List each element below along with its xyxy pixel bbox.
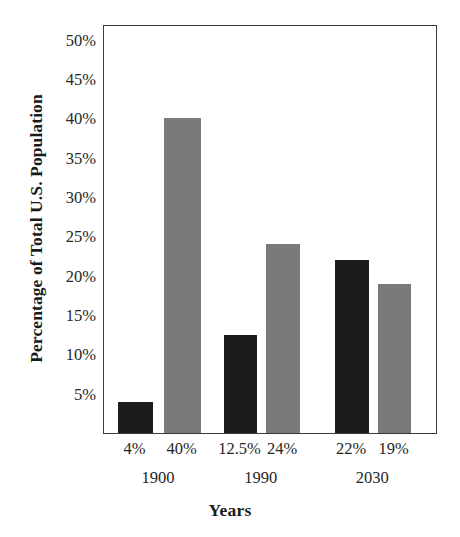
bar-value-label: 4% bbox=[124, 441, 146, 458]
y-axis-tick-label: 10% bbox=[50, 347, 96, 364]
y-axis-tick-label: 30% bbox=[50, 190, 96, 207]
bar bbox=[335, 260, 369, 433]
y-axis-tick-label: 20% bbox=[50, 268, 96, 285]
y-axis-tick-label: 40% bbox=[50, 111, 96, 128]
y-axis-tick-labels: 5%10%15%20%25%30%35%40%45%50% bbox=[48, 0, 96, 537]
bar-value-label: 22% bbox=[336, 441, 366, 458]
y-axis-tick-label: 45% bbox=[50, 72, 96, 89]
plot-area bbox=[103, 25, 437, 434]
bar bbox=[266, 244, 300, 433]
year-group-label: 2030 bbox=[356, 470, 389, 487]
bar-value-label: 12.5% bbox=[218, 441, 261, 458]
bar-value-label: 19% bbox=[378, 441, 408, 458]
y-axis-tick-label: 5% bbox=[50, 386, 96, 403]
y-axis-tick-label: 35% bbox=[50, 150, 96, 167]
bar-value-label: 40% bbox=[166, 441, 196, 458]
year-group-label: 1990 bbox=[244, 470, 277, 487]
x-axis-value-labels: 4%40%12.5%24%22%19% bbox=[103, 441, 437, 465]
bar bbox=[378, 284, 411, 433]
x-axis-group-labels: 190019902030 bbox=[103, 470, 437, 494]
bar-value-label: 24% bbox=[267, 441, 297, 458]
y-axis-tick-label: 15% bbox=[50, 308, 96, 325]
y-axis-title: Percentage of Total U.S. Population bbox=[26, 64, 47, 394]
year-group-label: 1900 bbox=[142, 470, 175, 487]
x-axis-title: Years bbox=[0, 500, 460, 521]
bar bbox=[164, 118, 201, 433]
y-axis-tick-label: 25% bbox=[50, 229, 96, 246]
bar bbox=[224, 335, 257, 433]
bar-chart: Percentage of Total U.S. Population 5%10… bbox=[0, 0, 460, 537]
bar-layer bbox=[104, 26, 436, 433]
bar bbox=[118, 402, 153, 433]
y-axis-tick-label: 50% bbox=[50, 32, 96, 49]
